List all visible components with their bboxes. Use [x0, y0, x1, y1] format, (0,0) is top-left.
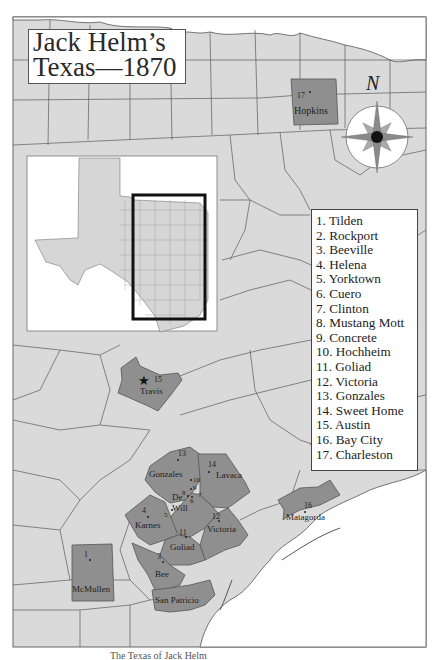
legend-item: 6. Cuero	[316, 287, 417, 302]
caption: The Texas of Jack Helm	[110, 650, 207, 660]
legend-item: 8. Mustang Mott	[316, 316, 417, 331]
svg-text:9: 9	[193, 484, 197, 492]
svg-text:Will: Will	[172, 503, 188, 513]
svg-text:5: 5	[164, 511, 168, 519]
svg-text:Goliad: Goliad	[170, 542, 195, 552]
map-title: Jack Helm’s Texas—1870	[28, 29, 186, 84]
svg-text:McMullen: McMullen	[72, 584, 110, 594]
svg-text:6: 6	[190, 497, 194, 505]
svg-text:De: De	[172, 492, 183, 502]
legend-item: 9. Concrete	[316, 331, 417, 346]
svg-text:Gonzales: Gonzales	[149, 469, 183, 479]
legend-item: 5. Yorktown	[316, 272, 417, 287]
svg-text:10: 10	[193, 476, 201, 484]
svg-text:Matagorda: Matagorda	[286, 512, 325, 522]
legend-item: 13. Gonzales	[316, 389, 417, 404]
legend-item: 12. Victoria	[316, 375, 417, 390]
legend-item: 16. Bay City	[316, 433, 417, 448]
svg-text:1: 1	[84, 550, 88, 559]
legend-item: 14. Sweet Home	[316, 404, 417, 419]
label-hopkins: Hopkins	[294, 105, 328, 116]
star-icon: ★	[138, 373, 150, 388]
legend-item: 10. Hochheim	[316, 345, 417, 360]
legend-item: 15. Austin	[316, 418, 417, 433]
svg-text:8: 8	[182, 489, 186, 497]
legend-item: 4. Helena	[316, 258, 417, 273]
title-line2: Texas—1870	[33, 55, 185, 80]
legend-item: 7. Clinton	[316, 302, 417, 317]
svg-text:17: 17	[297, 91, 305, 100]
svg-text:Lavaca: Lavaca	[216, 470, 242, 480]
svg-text:Karnes: Karnes	[135, 520, 161, 530]
legend-item: 17. Charleston	[316, 448, 417, 463]
svg-text:14: 14	[208, 460, 216, 469]
legend-item: 3. Beeville	[316, 243, 417, 258]
svg-text:15: 15	[154, 375, 162, 384]
svg-text:Victoria: Victoria	[207, 524, 236, 534]
legend: 1. Tilden 2. Rockport 3. Beeville 4. Hel…	[311, 209, 418, 471]
svg-text:13: 13	[178, 449, 186, 458]
legend-item: 11. Goliad	[316, 360, 417, 375]
svg-text:Bee: Bee	[155, 569, 169, 579]
north-label: N	[365, 72, 381, 94]
svg-text:12: 12	[212, 512, 220, 521]
svg-text:4: 4	[142, 506, 146, 515]
inset-map	[27, 156, 217, 332]
legend-item: 2. Rockport	[316, 229, 417, 244]
legend-item: 1. Tilden	[316, 214, 417, 229]
svg-text:San Patricio: San Patricio	[155, 595, 199, 605]
county-hopkins	[291, 79, 338, 125]
svg-text:7: 7	[198, 491, 202, 499]
svg-text:16: 16	[304, 501, 312, 510]
svg-text:3: 3	[157, 552, 161, 561]
svg-text:11: 11	[179, 528, 187, 537]
